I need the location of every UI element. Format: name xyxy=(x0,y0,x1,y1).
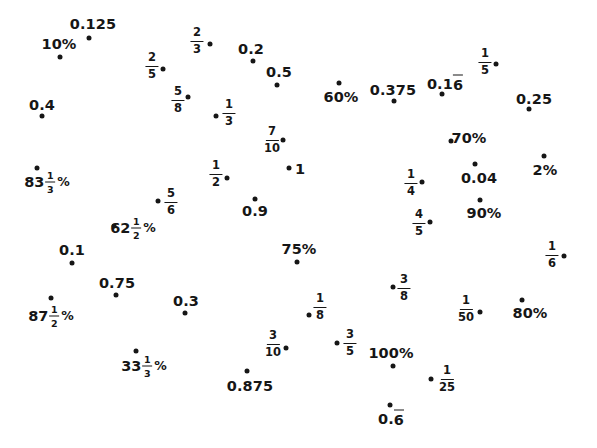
value-label: 0.9 xyxy=(242,204,268,219)
value-text: 80% xyxy=(512,306,547,321)
fraction-denominator: 25 xyxy=(439,380,455,394)
value-label: 18 xyxy=(313,293,326,321)
point-dot xyxy=(388,403,393,408)
fraction-denominator: 3 xyxy=(144,367,151,378)
point-dot xyxy=(420,180,425,185)
fraction-numerator: 1 xyxy=(545,241,558,256)
percent-sign: % xyxy=(154,360,167,373)
fraction-denominator: 4 xyxy=(407,184,415,198)
fraction: 14 xyxy=(404,169,417,197)
fraction: 25 xyxy=(145,52,158,80)
fraction: 13 xyxy=(143,355,153,378)
value-label: 710 xyxy=(264,126,280,154)
point-dot xyxy=(494,62,499,67)
value-text: 0.5 xyxy=(266,65,292,80)
point-dot xyxy=(478,198,483,203)
fraction-denominator: 5 xyxy=(148,67,156,81)
fraction: 13 xyxy=(46,171,56,194)
fraction: 13 xyxy=(222,99,235,127)
fraction-denominator: 8 xyxy=(174,101,182,115)
fraction-numerator: 5 xyxy=(164,188,177,203)
fraction: 12 xyxy=(209,160,222,188)
point-dot xyxy=(562,254,567,259)
value-label: 90% xyxy=(466,206,501,221)
point-dot xyxy=(520,298,525,303)
repeating-digit-overbar: 6 xyxy=(453,75,463,92)
value-label: 80% xyxy=(512,306,547,321)
value-text: 0.875 xyxy=(227,379,273,394)
value-label: 35 xyxy=(343,329,356,357)
point-dot xyxy=(114,293,119,298)
point-dot xyxy=(183,311,188,316)
point-dot xyxy=(214,114,219,119)
fraction-numerator: 1 xyxy=(222,99,235,114)
value-label: 0.5 xyxy=(266,65,292,80)
fraction-denominator: 3 xyxy=(193,42,201,56)
fraction-numerator: 5 xyxy=(171,86,184,101)
value-text: 0.1 xyxy=(59,243,85,258)
value-text: 0.3 xyxy=(173,294,199,309)
point-dot xyxy=(335,341,340,346)
value-label: 0.2 xyxy=(238,42,264,57)
fraction-denominator: 8 xyxy=(316,308,324,322)
value-text: 90% xyxy=(466,206,501,221)
value-text: 70% xyxy=(451,131,486,146)
value-label: 15 xyxy=(478,48,491,76)
fraction-numerator: 3 xyxy=(266,330,279,345)
repeating-decimal: 0.6 xyxy=(378,410,404,427)
fraction: 16 xyxy=(545,241,558,269)
value-label: 0.75 xyxy=(99,276,135,291)
value-label: 8712% xyxy=(28,305,74,328)
fraction-denominator: 5 xyxy=(481,63,489,77)
value-label: 60% xyxy=(323,90,358,105)
point-dot xyxy=(275,83,280,88)
value-label: 25 xyxy=(145,52,158,80)
fraction: 150 xyxy=(458,295,474,323)
point-dot xyxy=(391,285,396,290)
value-label: 16 xyxy=(545,241,558,269)
point-dot xyxy=(392,99,397,104)
fraction-denominator: 2 xyxy=(51,317,58,328)
fraction: 710 xyxy=(264,126,280,154)
repeating-decimal-prefix: 0.1 xyxy=(427,76,453,92)
value-label: 0.4 xyxy=(29,98,55,113)
fraction-denominator: 5 xyxy=(346,344,354,358)
fraction: 58 xyxy=(171,86,184,114)
fraction: 125 xyxy=(439,365,455,393)
fraction-denominator: 10 xyxy=(264,141,280,155)
fraction-numerator: 1 xyxy=(459,295,472,310)
fraction: 38 xyxy=(397,274,410,302)
fraction-numerator: 1 xyxy=(143,355,153,367)
value-label: 8313% xyxy=(24,171,70,194)
value-text: 0.75 xyxy=(99,276,135,291)
value-text: 75% xyxy=(281,242,316,257)
point-dot xyxy=(440,92,445,97)
point-dot xyxy=(307,313,312,318)
point-dot xyxy=(251,59,256,64)
fraction-numerator: 4 xyxy=(412,209,425,224)
point-dot xyxy=(337,81,342,86)
value-text: 0.2 xyxy=(238,42,264,57)
fraction-numerator: 3 xyxy=(343,329,356,344)
fraction: 56 xyxy=(164,188,177,216)
mixed-whole-number: 62 xyxy=(110,221,130,236)
value-label: 125 xyxy=(439,365,455,393)
mixed-whole-number: 83 xyxy=(24,175,44,190)
fraction-denominator: 8 xyxy=(400,289,408,303)
value-label: 23 xyxy=(190,27,203,55)
percent-sign: % xyxy=(57,176,70,189)
point-dot xyxy=(40,114,45,119)
value-label: 45 xyxy=(412,209,425,237)
fraction: 15 xyxy=(478,48,491,76)
value-label: 100% xyxy=(368,346,413,361)
value-label: 75% xyxy=(281,242,316,257)
value-label: 10% xyxy=(41,37,76,52)
fraction-numerator: 1 xyxy=(478,48,491,63)
fraction: 12 xyxy=(50,305,60,328)
fraction: 45 xyxy=(412,209,425,237)
point-dot xyxy=(134,349,139,354)
point-dot xyxy=(478,310,483,315)
point-dot xyxy=(429,377,434,382)
repeating-decimal-prefix: 0. xyxy=(378,411,394,427)
value-text: 1 xyxy=(295,162,305,177)
